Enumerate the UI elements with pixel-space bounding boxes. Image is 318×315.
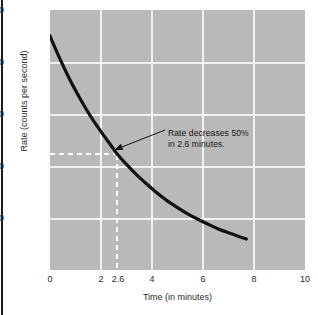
- x-tick-label-6: 6: [200, 274, 205, 284]
- annotation-half-life: Rate decreases 50% in 2.6 minutes.: [168, 128, 249, 150]
- y-tick-label-4000: 4000: [0, 57, 4, 67]
- x-tick-label-8: 8: [251, 274, 256, 284]
- x-axis-title: Time (in minutes): [50, 292, 305, 302]
- y-tick-label-5000: 5000: [0, 5, 4, 15]
- x-tick-label-4: 4: [149, 274, 154, 284]
- y-tick-label-2000: 2000: [0, 161, 4, 171]
- page-edge-rule: [1, 0, 3, 315]
- y-tick-label-1000: 1000: [0, 213, 4, 223]
- annotation-line-2: in 2.6 minutes.: [168, 139, 249, 150]
- y-tick-label-3000: 3000: [0, 109, 4, 119]
- plot-area: Rate decreases 50% in 2.6 minutes.: [50, 10, 305, 270]
- x-tick-label-0: 0: [47, 274, 52, 284]
- x-tick-label-2.6: 2.6: [112, 274, 125, 284]
- x-tick-label-2: 2: [98, 274, 103, 284]
- y-axis-title: Rate (counts per second): [19, 21, 29, 181]
- x-tick-label-10: 10: [300, 274, 310, 284]
- chart-figure: 5000 4000 3000 2000 1000 Rate (counts pe…: [0, 0, 318, 315]
- annotation-line-1: Rate decreases 50%: [168, 128, 249, 139]
